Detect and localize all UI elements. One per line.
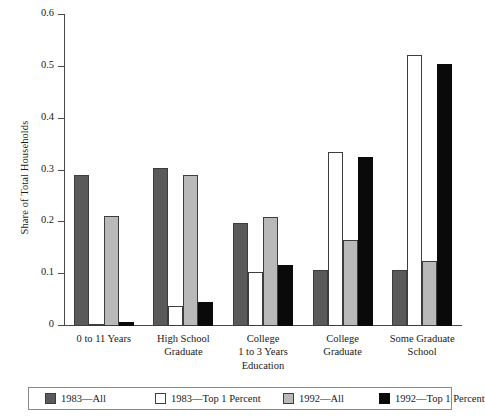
y-axis-tick-label: 0.5 [41,59,54,70]
y-axis-tick-label: 0.2 [41,214,54,225]
bar-group-bars [303,15,383,326]
bar [153,168,168,326]
legend-swatch-icon [155,393,166,404]
legend-item: 1983—Top 1 Percent [155,393,261,404]
x-axis-category-label-line: Graduate [323,346,361,359]
legend-label: 1992—All [299,393,344,404]
x-axis-category-label: High SchoolGraduate [157,326,210,358]
bar-group: CollegeGraduate [303,15,383,326]
x-axis-title: Education [64,360,462,371]
x-axis-category-label: College1 to 3 Years [238,326,288,358]
x-axis-category-label-line: High School [157,333,210,346]
bar-group: College1 to 3 Years [223,15,303,326]
x-axis-category-label: Some GraduateSchool [390,326,455,358]
bar [263,217,278,326]
x-axis-category-label-line: College [238,333,288,346]
bar-group: Some GraduateSchool [382,15,462,326]
x-axis-category-label-line: Some Graduate [390,333,455,346]
legend-label: 1992—Top 1 Percent [395,393,485,404]
y-axis-title: Share of Total Households [19,88,30,268]
bar [437,64,452,326]
bar-group: High SchoolGraduate [144,15,224,326]
bar-group-bars [223,15,303,326]
bar [358,157,373,326]
legend-swatch-icon [283,393,294,404]
x-axis-category-label-line: 0 to 11 Years [77,333,131,346]
bar [343,240,358,326]
x-axis-category-label: 0 to 11 Years [77,326,131,346]
x-axis-category-label-line: School [390,346,455,359]
chart-legend: 1983—All1983—Top 1 Percent1992—All1992—T… [28,387,452,410]
y-axis-tick-label: 0.3 [41,163,54,174]
y-axis-tick-label: 0.4 [41,111,54,122]
x-axis-category-label: CollegeGraduate [323,326,361,358]
y-axis-tick-label: 0.6 [41,7,54,18]
x-axis-category-label-line: Graduate [157,346,210,359]
bar [407,55,422,326]
bar [248,272,263,326]
bar [198,302,213,326]
legend-item: 1992—Top 1 Percent [379,393,485,404]
y-axis-tick-label: 0 [49,318,54,329]
x-axis-category-label-line: College [323,333,361,346]
bar [104,216,119,326]
bar [74,175,89,326]
bar-group: 0 to 11 Years [64,15,144,326]
bar [422,261,437,326]
bar [168,306,183,326]
legend-item: 1992—All [283,393,344,404]
bar [278,265,293,326]
plot-area: 00.10.20.30.40.50.6 0 to 11 YearsHigh Sc… [64,15,462,326]
bar [313,270,328,326]
x-axis-category-label-line: 1 to 3 Years [238,346,288,359]
bar [392,270,407,326]
y-axis-tick-label: 0.1 [41,266,54,277]
legend-swatch-icon [45,393,56,404]
bar-group-bars [64,15,144,326]
legend-swatch-icon [379,393,390,404]
bar [233,223,248,326]
bar-group-bars [382,15,462,326]
legend-item: 1983—All [45,393,106,404]
legend-label: 1983—All [61,393,106,404]
bar [328,152,343,326]
bar [183,175,198,326]
legend-label: 1983—Top 1 Percent [171,393,261,404]
bar-group-bars [144,15,224,326]
